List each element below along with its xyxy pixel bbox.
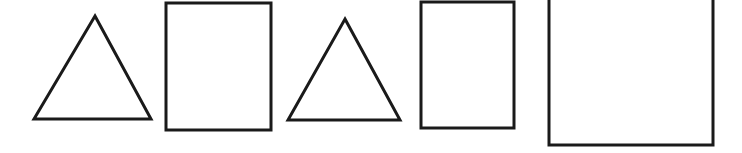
shape-canvas-root	[0, 0, 742, 153]
canvas-background	[0, 0, 742, 153]
shapes-drawing	[0, 0, 742, 153]
